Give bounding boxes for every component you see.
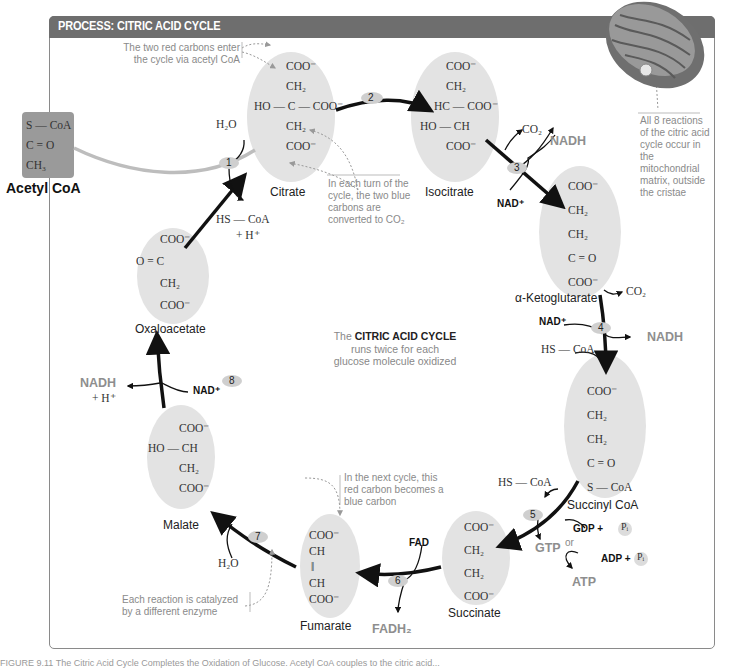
step-1-hscoa: HS — CoA bbox=[216, 213, 270, 225]
note-mitochondria: All 8 reactions of the citric acid cycle… bbox=[640, 115, 712, 199]
step-8-number: 8 bbox=[229, 375, 235, 386]
step-3-number: 3 bbox=[514, 162, 520, 173]
step-8-hplus: + H⁺ bbox=[92, 391, 116, 405]
step-5-pi-1: Pᵢ bbox=[621, 521, 628, 532]
step-3-nad: NAD⁺ bbox=[497, 198, 524, 209]
succinate-label: Succinate bbox=[448, 606, 501, 620]
step-4-co2: CO₂ bbox=[626, 285, 646, 297]
succinate-structure: COO⁻ CH₂ CH₂ COO⁻ bbox=[464, 516, 494, 608]
note-next-cycle: In the next cycle, this red carbon becom… bbox=[344, 472, 454, 508]
step-5-adp: ADP + bbox=[601, 553, 631, 564]
figure-caption: FIGURE 9.11 The Citric Acid Cycle Comple… bbox=[0, 658, 440, 668]
step-2-number: 2 bbox=[368, 92, 374, 103]
step-6-fadh2: FADH₂ bbox=[372, 622, 412, 636]
step-6-number: 6 bbox=[395, 575, 401, 586]
note-red-carbons: The two red carbons enter the cycle via … bbox=[116, 42, 240, 66]
note-blue-carbons: In each turn of the cycle, the two blue … bbox=[328, 178, 418, 226]
isocitrate-structure: COO⁻ CH₂ HC — COO⁻ HO — CH COO⁻ bbox=[420, 56, 498, 156]
acetyl-coa-label: Acetyl CoA bbox=[6, 180, 81, 196]
malate-label: Malate bbox=[163, 518, 199, 532]
step-5-atp: ATP bbox=[572, 575, 596, 589]
step-5-gdp: GDP + bbox=[573, 523, 603, 534]
step-5-or: or bbox=[565, 537, 574, 548]
ketoglutarate-label: α-Ketoglutarate bbox=[515, 291, 597, 305]
fumarate-structure: COO⁻ CH ‖ CH COO⁻ bbox=[309, 527, 339, 607]
step-4-number: 4 bbox=[598, 322, 604, 333]
step-1-number: 1 bbox=[226, 157, 232, 168]
step-3-nadh: NADH bbox=[550, 134, 586, 148]
citrate-structure: COO⁻ CH₂ HO — C — COO⁻ CH₂ COO⁻ bbox=[254, 56, 343, 156]
step-4-nad: NAD⁺ bbox=[539, 316, 566, 327]
step-6-fad: FAD bbox=[409, 537, 429, 548]
center-description: The CITRIC ACID CYCLE runs twice for eac… bbox=[300, 330, 490, 368]
citrate-label: Citrate bbox=[270, 185, 305, 199]
step-5-hscoa: HS — CoA bbox=[498, 476, 552, 488]
oxaloacetate-structure: COO⁻ O = C CH₂ COO⁻ bbox=[136, 228, 190, 316]
step-5-number: 5 bbox=[530, 509, 536, 520]
step-5-pi-2: Pᵢ bbox=[637, 551, 644, 562]
step-4-nadh: NADH bbox=[647, 330, 683, 344]
acetyl-coa-structure: S — CoA C = O CH₃ bbox=[26, 115, 71, 175]
step-4-hscoa: HS — CoA bbox=[541, 343, 595, 355]
oxaloacetate-label: Oxaloacetate bbox=[135, 322, 206, 336]
succinyl-coa-label: Succinyl CoA bbox=[567, 498, 638, 512]
step-7-number: 7 bbox=[255, 531, 261, 542]
step-1-hplus: + H⁺ bbox=[236, 228, 260, 242]
step-8-nad: NAD⁺ bbox=[193, 385, 220, 396]
mitochondrion-icon bbox=[590, 0, 720, 106]
fumarate-label: Fumarate bbox=[300, 619, 351, 633]
note-enzyme: Each reaction is catalyzed by a differen… bbox=[122, 594, 248, 618]
ketoglutarate-structure: COO⁻ CH₂ CH₂ C = O COO⁻ bbox=[568, 174, 598, 294]
step-8-nadh: NADH bbox=[80, 376, 116, 390]
succinyl-coa-structure: COO⁻ CH₂ CH₂ C = O S — CoA bbox=[587, 379, 632, 499]
step-5-gtp: GTP bbox=[535, 541, 561, 555]
step-1-water: H₂O bbox=[216, 118, 237, 130]
malate-structure: COO⁻ HO — CH CH₂ COO⁻ bbox=[148, 418, 209, 498]
step-7-water: H₂O bbox=[218, 557, 239, 569]
step-3-co2: CO₂ bbox=[522, 123, 542, 135]
isocitrate-label: Isocitrate bbox=[425, 185, 474, 199]
